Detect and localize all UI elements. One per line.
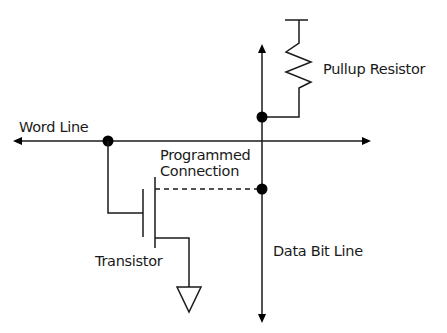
- programmed-connection-label-line2: Connection: [160, 163, 239, 179]
- programmed-connection: [155, 184, 268, 195]
- word-line-left-arrow-icon: [13, 137, 22, 145]
- word-line: [13, 137, 371, 145]
- transistor-label: Transistor: [95, 253, 162, 269]
- rom-cell-diagram: Word Line Pullup Resistor Programmed Con…: [0, 0, 447, 333]
- pullup-resistor-label: Pullup Resistor: [323, 61, 425, 77]
- data-bit-line-bottom-arrow-icon: [258, 314, 266, 323]
- data-bit-line-label: Data Bit Line: [273, 243, 363, 259]
- bit-line-junction-dot: [257, 184, 268, 195]
- word-line-label: Word Line: [19, 119, 88, 135]
- word-line-right-arrow-icon: [362, 137, 371, 145]
- pullup-resistor: [257, 20, 312, 123]
- ground-icon: [177, 287, 201, 312]
- resistor-junction-dot: [257, 112, 268, 123]
- gate-wire: [108, 141, 143, 213]
- data-bit-line-top-arrow-icon: [258, 44, 266, 53]
- resistor-zigzag-icon: [262, 20, 311, 117]
- programmed-connection-label-line1: Programmed: [160, 147, 250, 163]
